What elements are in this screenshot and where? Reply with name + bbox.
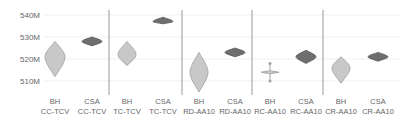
y-tick-label: 540M: [20, 11, 40, 20]
violin-bh-rd-aa10: [190, 52, 208, 92]
x-label-method: CSA: [370, 97, 385, 106]
x-label-method: CSA: [298, 97, 313, 106]
x-label-method: CSA: [84, 97, 99, 106]
violin-csa-tc-tcv: [153, 17, 173, 24]
x-label-group: RC-AA10: [254, 107, 286, 116]
x-label-method: BH: [122, 97, 132, 106]
y-axis-tick-labels: 510M520M530M540M: [20, 11, 40, 86]
violin-bh-cc-tcv: [45, 41, 65, 76]
violin-shape: [225, 48, 245, 57]
x-label-group: RD-AA10: [219, 107, 251, 116]
x-label-method: BH: [194, 97, 204, 106]
violin-bh-cr-aa10: [332, 57, 350, 83]
violin-shape: [296, 50, 316, 63]
violin-shape: [118, 41, 136, 65]
chart-canvas: 510M520M530M540M BHCC-TCVCSACC-TCVBHTC-T…: [0, 0, 414, 123]
violin-shape: [45, 41, 65, 76]
violin-bh-tc-tcv: [118, 41, 136, 65]
violin-shape: [153, 17, 173, 24]
y-tick-label: 530M: [20, 33, 40, 42]
group-separators: [109, 10, 323, 95]
x-label-group: CC-TCV: [78, 107, 106, 116]
violin-csa-rd-aa10: [225, 48, 245, 57]
violin-shape: [82, 37, 102, 46]
x-label-group: CR-AA10: [325, 107, 357, 116]
violin-csa-cc-tcv: [82, 37, 102, 46]
y-tick-label: 510M: [20, 77, 40, 86]
x-label-group: RD-AA10: [183, 107, 215, 116]
x-label-method: BH: [265, 97, 275, 106]
x-label-method: BH: [50, 97, 60, 106]
x-label-method: CSA: [155, 97, 170, 106]
violin-chart: 510M520M530M540M BHCC-TCVCSACC-TCVBHTC-T…: [0, 0, 414, 123]
x-label-group: CR-AA10: [362, 107, 394, 116]
x-label-group: TC-TCV: [149, 107, 177, 116]
x-label-group: CC-TCV: [41, 107, 69, 116]
violin-shape: [368, 52, 388, 61]
x-label-method: BH: [336, 97, 346, 106]
violin-bh-rc-aa10: [261, 62, 279, 83]
x-axis-labels: BHCC-TCVCSACC-TCVBHTC-TCVCSATC-TCVBHRD-A…: [41, 97, 394, 116]
x-label-group: RC-AA10: [290, 107, 322, 116]
violin-shape: [190, 52, 208, 92]
x-label-method: CSA: [227, 97, 242, 106]
violin-shape: [261, 71, 279, 74]
y-tick-label: 520M: [20, 55, 40, 64]
violin-csa-rc-aa10: [296, 50, 316, 63]
violin-shape: [332, 57, 350, 83]
x-label-group: TC-TCV: [113, 107, 141, 116]
violin-csa-cr-aa10: [368, 52, 388, 61]
